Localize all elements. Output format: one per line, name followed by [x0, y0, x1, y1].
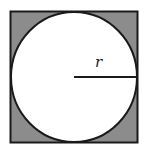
radius-label: r: [95, 53, 103, 71]
diagram-canvas: r: [0, 0, 145, 153]
